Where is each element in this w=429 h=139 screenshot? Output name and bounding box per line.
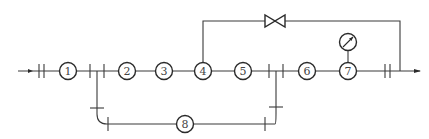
node-4[interactable]: 4 — [195, 63, 212, 80]
inlet-arrow-icon — [28, 69, 33, 73]
node-6-label: 6 — [304, 65, 311, 78]
upper-bypass-pipe — [203, 21, 400, 71]
node-2-label: 2 — [124, 65, 131, 78]
node-1[interactable]: 1 — [60, 63, 77, 80]
node-8[interactable]: 8 — [177, 116, 194, 133]
node-8-label: 8 — [182, 118, 189, 131]
node-5[interactable]: 5 — [235, 63, 252, 80]
node-3-label: 3 — [161, 65, 168, 78]
node-2[interactable]: 2 — [119, 63, 136, 80]
node-3[interactable]: 3 — [156, 63, 173, 80]
node-6[interactable]: 6 — [299, 63, 316, 80]
node-4-label: 4 — [200, 65, 207, 78]
node-5-label: 5 — [240, 65, 247, 78]
gate-valve-icon[interactable] — [265, 15, 285, 27]
pressure-gauge-icon — [340, 34, 357, 51]
outlet-arrow-icon — [414, 69, 421, 73]
node-7-label: 7 — [345, 65, 352, 78]
node-7[interactable]: 7 — [340, 63, 357, 80]
node-1-label: 1 — [65, 65, 72, 78]
piping-diagram: 1 2 3 4 5 6 7 8 — [0, 0, 429, 139]
